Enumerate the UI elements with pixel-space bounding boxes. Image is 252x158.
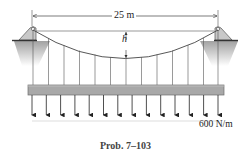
- bridge-drawing: [0, 0, 252, 158]
- span-label: 25 m: [112, 9, 136, 20]
- figure-caption: Prob. 7–103: [100, 140, 151, 151]
- distributed-load-arrows: [32, 95, 218, 115]
- sag-label: h: [122, 33, 127, 44]
- right-support: [200, 27, 238, 67]
- load-label: 600 N/m: [199, 119, 233, 129]
- bridge-deck: [28, 85, 224, 95]
- left-support: [12, 27, 50, 67]
- diagram-canvas: 25 m h 600 N/m Prob. 7–103: [0, 0, 252, 158]
